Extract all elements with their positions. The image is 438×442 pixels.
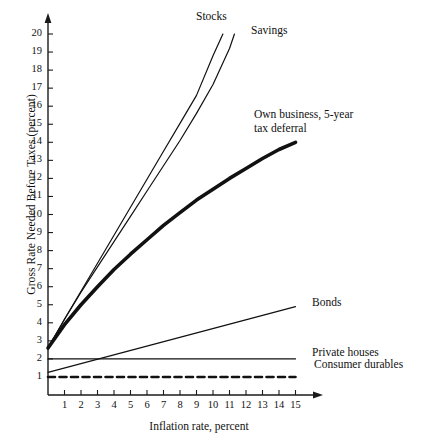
chart-figure: Gross Rate Needed Before Taxes (percent)… xyxy=(0,0,438,442)
y-tick-label: 4 xyxy=(16,316,42,327)
y-tick-label: 18 xyxy=(16,63,42,74)
y-tick-label: 11 xyxy=(16,189,42,200)
series-line-stocks xyxy=(48,34,223,348)
series-label-consumer-durables: Consumer durables xyxy=(314,358,403,371)
y-tick-label: 3 xyxy=(16,334,42,345)
y-tick-label: 6 xyxy=(16,280,42,291)
y-tick-label: 1 xyxy=(16,370,42,381)
x-axis-arrowhead xyxy=(313,392,323,399)
series-label-savings: Savings xyxy=(251,24,287,37)
chart-plot-area xyxy=(0,0,438,442)
y-tick-label: 5 xyxy=(16,298,42,309)
y-tick-label: 2 xyxy=(16,352,42,363)
x-axis-ticks xyxy=(65,390,296,395)
series-label-own-business-line1: Own business, 5-year xyxy=(254,108,353,121)
y-tick-label: 19 xyxy=(16,45,42,56)
y-tick-label: 12 xyxy=(16,171,42,182)
y-tick-label: 16 xyxy=(16,99,42,110)
series-label-own-business-line2: tax deferral xyxy=(254,122,307,135)
y-tick-label: 7 xyxy=(16,262,42,273)
series-line-own-business-5-year-tax-deferral xyxy=(48,142,296,348)
axes xyxy=(45,13,323,398)
y-tick-label: 15 xyxy=(16,117,42,128)
x-tick-label: 15 xyxy=(286,399,306,410)
y-tick-label: 10 xyxy=(16,208,42,219)
x-axis-title: Inflation rate, percent xyxy=(69,420,329,433)
y-axis-ticks xyxy=(48,34,53,377)
series-label-stocks: Stocks xyxy=(196,10,227,23)
series-line-bonds xyxy=(48,307,296,373)
y-axis-arrowhead xyxy=(45,13,52,23)
y-tick-label: 13 xyxy=(16,153,42,164)
series-line-savings xyxy=(48,34,234,348)
y-tick-label: 8 xyxy=(16,244,42,255)
y-tick-label: 17 xyxy=(16,81,42,92)
data-series xyxy=(48,34,296,377)
y-tick-label: 9 xyxy=(16,226,42,237)
y-tick-label: 14 xyxy=(16,135,42,146)
y-tick-label: 20 xyxy=(16,27,42,38)
series-label-bonds: Bonds xyxy=(312,296,341,309)
series-label-private-houses: Private houses xyxy=(312,346,379,359)
